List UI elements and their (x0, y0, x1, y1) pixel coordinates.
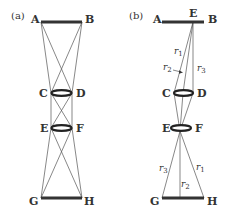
ray-r2-bottom-label: r2 (181, 179, 190, 191)
ray-r3-bottom-label: r3 (159, 163, 168, 175)
point-g-label: G (29, 195, 38, 208)
point-e-label: E (40, 122, 48, 135)
point-g-label: G (150, 195, 159, 208)
point-c-label: C (162, 87, 171, 100)
optics-diagram: (a) A B C D E (0, 0, 226, 215)
point-f-label: F (195, 122, 203, 135)
lens-ef (171, 125, 191, 131)
point-a-label: A (30, 13, 40, 26)
panel-a: (a) A B C D E (11, 10, 94, 208)
point-d-label: D (197, 87, 207, 100)
lens-cd (52, 90, 72, 96)
point-c-label: C (39, 87, 48, 100)
point-h-label: H (207, 195, 217, 208)
panel-a-rays (41, 22, 82, 198)
point-b-label: B (208, 13, 217, 26)
ray-r1-bottom-label: r1 (196, 162, 205, 174)
point-f-label: F (76, 122, 84, 135)
panel-a-label: (a) (11, 10, 25, 21)
panel-b-label: (b) (129, 10, 143, 21)
ray-r1-top-label: r1 (174, 46, 183, 58)
point-e-label: E (162, 122, 170, 135)
point-d-label: D (76, 87, 86, 100)
point-h-label: H (84, 195, 94, 208)
panel-b: (b) A E B C D E F G H (129, 7, 217, 208)
lens-cd (174, 90, 193, 96)
point-e-top-label: E (189, 7, 197, 20)
point-a-label: A (152, 13, 162, 26)
ray-r2-top-label: r2 (163, 62, 172, 74)
ray-r3-top-label: r3 (197, 63, 206, 75)
lens-ef (52, 125, 72, 131)
point-b-label: B (85, 13, 94, 26)
